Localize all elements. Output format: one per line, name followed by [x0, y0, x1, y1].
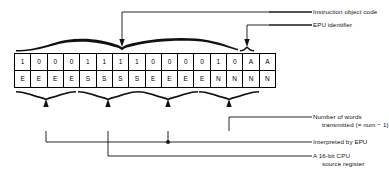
field-type-cell: N [243, 71, 259, 87]
leader-line-epu-identifier [247, 25, 312, 42]
bit-cell: A [243, 54, 259, 70]
bit-field-box: 1 0 0 0 1 1 1 1 0 0 0 0 1 0 A A E E E E … [14, 53, 276, 88]
leader-line-cpu-source-register [108, 131, 312, 156]
arrowhead-epu-identifier [244, 39, 249, 47]
bit-cell: 0 [162, 54, 178, 70]
bit-cell: 1 [113, 54, 129, 70]
field-type-cell: E [15, 71, 31, 87]
field-type-cell: E [31, 71, 47, 87]
callout-number-of-words-line1: Number of words [313, 113, 362, 121]
callout-interpreted-by-epu: Interpreted by EPU [313, 138, 367, 146]
callout-cpu-source-register-line1: A 16-bit CPU [313, 152, 350, 160]
callout-instruction-object-code: Instruction object code [313, 8, 377, 16]
bit-cell: 0 [227, 54, 243, 70]
brace-bottom-field-4 [199, 91, 259, 100]
bit-cell: 0 [64, 54, 80, 70]
bit-cell: A [260, 54, 275, 70]
leader-line-interpreted-by-epu [46, 131, 312, 142]
field-type-cell: E [162, 71, 178, 87]
bit-cell: 0 [194, 54, 210, 70]
callout-cpu-source-register-line2: source register [313, 160, 364, 168]
brace-bottom-field-2 [78, 91, 138, 100]
field-type-cell: N [211, 71, 227, 87]
bit-cell: 0 [178, 54, 194, 70]
bit-cell: 0 [146, 54, 162, 70]
bit-cell: 1 [80, 54, 96, 70]
field-type-cell: E [194, 71, 210, 87]
bit-cell: 0 [48, 54, 64, 70]
line-junction-dot [166, 140, 170, 144]
bit-row-field-type: E E E E S S S S E E E E N N N N [15, 71, 275, 87]
field-type-cell: E [178, 71, 194, 87]
arrowhead-instruction-object-code [119, 39, 124, 47]
field-type-cell: S [113, 71, 129, 87]
brace-bottom-field-1 [16, 91, 76, 100]
leader-line-instruction-object-code [122, 12, 312, 42]
bit-row-object-code: 1 0 0 0 1 1 1 1 0 0 0 0 1 0 A A [15, 54, 275, 71]
bit-cell: 0 [31, 54, 47, 70]
bit-cell: 1 [129, 54, 145, 70]
bit-cell: 1 [211, 54, 227, 70]
callout-epu-identifier: EPU identifier [313, 21, 352, 29]
brace-bottom-field-3 [138, 91, 198, 100]
callout-number-of-words-line2: transmitted (= num − 1) [313, 121, 389, 129]
bit-cell: 1 [15, 54, 31, 70]
brace-top-epu-identifier [240, 47, 254, 52]
brace-top-object-code [16, 38, 238, 52]
field-type-cell: S [80, 71, 96, 87]
field-type-cell: S [129, 71, 145, 87]
field-type-cell: E [64, 71, 80, 87]
leader-line-number-of-words [229, 117, 312, 131]
field-type-cell: E [146, 71, 162, 87]
field-type-cell: N [227, 71, 243, 87]
field-type-cell: N [260, 71, 275, 87]
field-type-cell: S [97, 71, 113, 87]
bit-cell: 1 [97, 54, 113, 70]
field-type-cell: E [48, 71, 64, 87]
